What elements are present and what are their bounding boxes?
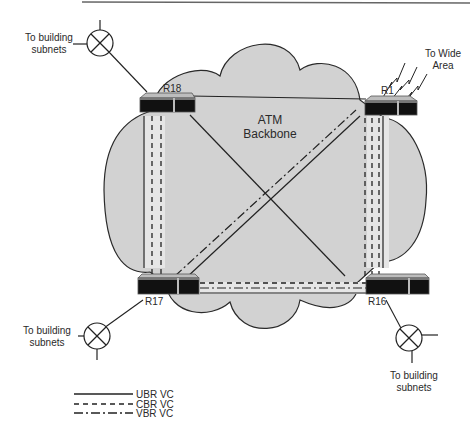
atm-backbone-diagram (0, 0, 473, 434)
router-label-r18: R18 (163, 83, 181, 94)
top-rule (82, 2, 470, 3)
router-r16[interactable] (366, 274, 429, 294)
router-r18[interactable] (140, 93, 195, 112)
backbone-label-line2: Backbone (240, 127, 300, 141)
subnet-label-line1: To building (18, 32, 80, 44)
wide-area-label: To Wide Area (418, 48, 468, 72)
subnet-node-bottom-left (78, 323, 110, 360)
subnet-node-bottom-right (396, 325, 438, 363)
legend-vbr-label: VBR VC (136, 408, 173, 419)
subnet-label-top-left: To building subnets (18, 32, 80, 56)
wide-area-line1: To Wide (418, 48, 468, 60)
subnet-label-line2: subnets (18, 44, 80, 56)
subnet-label-line1: To building (383, 370, 445, 382)
wide-area-line2: Area (418, 60, 468, 72)
backbone-label-line1: ATM (240, 113, 300, 127)
router-label-r17: R17 (145, 296, 163, 307)
router-label-r16: R16 (368, 296, 386, 307)
backbone-label: ATM Backbone (240, 113, 300, 141)
left-link-channel (143, 116, 165, 268)
router-r17[interactable] (138, 274, 199, 294)
right-link-channel (367, 116, 389, 268)
subnet-label-bottom-left: To building subnets (16, 325, 78, 349)
subnet-label-line2: subnets (16, 337, 78, 349)
subnet-label-line1: To building (16, 325, 78, 337)
router-label-r1: R1 (381, 85, 394, 96)
subnet-label-bottom-right: To building subnets (383, 370, 445, 394)
subnet-label-line2: subnets (383, 382, 445, 394)
legend-lines (74, 394, 133, 413)
router-r1[interactable] (365, 96, 417, 115)
